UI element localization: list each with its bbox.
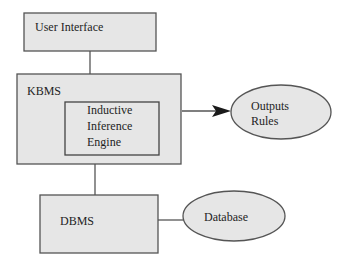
kbms-label: KBMS <box>27 84 61 99</box>
outputs-rules-line-2: Rules <box>251 114 278 129</box>
dbms-label: DBMS <box>60 214 94 229</box>
inference-engine-line-3: Engine <box>87 135 121 150</box>
outputs-rules-line-1: Outputs <box>251 99 289 114</box>
user-interface-label: User Interface <box>35 20 103 35</box>
dbms-box <box>40 195 158 253</box>
database-label: Database <box>204 210 248 225</box>
diagram-shapes <box>0 0 350 268</box>
architecture-diagram: User Interface KBMS Inductive Inference … <box>0 0 350 268</box>
inference-engine-line-2: Inference <box>87 119 132 134</box>
inference-engine-line-1: Inductive <box>87 103 132 118</box>
